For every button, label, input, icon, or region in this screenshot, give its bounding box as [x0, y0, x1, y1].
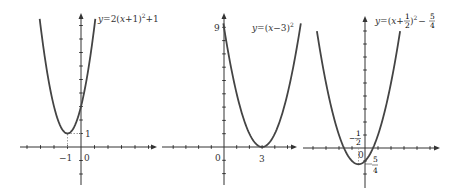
- equation-label: y=2(x+1)2+1: [97, 12, 159, 24]
- svg-text:4: 4: [373, 166, 378, 175]
- y-axis-arrow-icon: [363, 16, 368, 22]
- x-axis-arrow-icon: [151, 145, 157, 150]
- svg-text:)2−: )2−: [410, 14, 426, 26]
- axis-ticks: [27, 26, 149, 175]
- graph-2: 0 3 9 y=(x−3)2: [162, 13, 301, 185]
- label-y-1: 1: [85, 129, 91, 139]
- parabola-graphs-canvas: −1 0 1 y=2(x+1)2+1 0 3 9 y=(x−3)2: [0, 0, 459, 196]
- svg-text:4: 4: [430, 21, 435, 30]
- svg-text:5: 5: [430, 12, 435, 21]
- label-x-minus-half: − 1 2: [349, 129, 361, 147]
- label-y-9: 9: [214, 23, 220, 33]
- parabola-curve: [40, 19, 96, 134]
- label-origin-0: 0: [215, 153, 221, 163]
- svg-text:2: 2: [356, 138, 361, 147]
- label-x-minus-1: −1: [59, 153, 72, 163]
- y-axis-arrow-icon: [222, 13, 227, 19]
- graph-1: −1 0 1 y=2(x+1)2+1: [20, 12, 159, 185]
- equation-label: y=(x−3)2: [251, 21, 294, 33]
- axis-ticks: [173, 27, 287, 173]
- svg-text:5: 5: [373, 155, 378, 164]
- label-x-3: 3: [259, 154, 265, 164]
- label-origin-0: 0: [84, 153, 90, 163]
- svg-text:y=(x+: y=(x+: [374, 16, 404, 26]
- svg-text:1: 1: [356, 129, 361, 138]
- x-axis-arrow-icon: [291, 145, 297, 150]
- x-axis-arrow-icon: [434, 146, 440, 151]
- graph-3: − 1 2 0 5 4 y=(x+ 1 2 )2− 5 4: [303, 12, 440, 188]
- parabola-curve: [223, 23, 300, 147]
- label-origin-0: 0: [358, 150, 364, 160]
- y-axis-arrow-icon: [79, 13, 84, 19]
- equation-label: y=(x+ 1 2 )2− 5 4: [374, 12, 435, 30]
- svg-text:−: −: [349, 134, 355, 143]
- graph-2-axes: [162, 13, 297, 185]
- graph-3-axes: [303, 16, 440, 188]
